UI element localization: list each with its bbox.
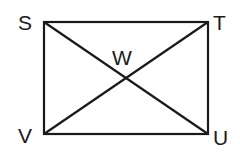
vertex-label-u: U (213, 126, 228, 149)
intersection-label-w: W (112, 46, 132, 69)
vertex-label-v: V (18, 124, 32, 147)
vertex-label-t: T (213, 11, 226, 34)
rectangle-diagram: S T U V W (0, 0, 240, 156)
vertex-label-s: S (18, 11, 32, 34)
